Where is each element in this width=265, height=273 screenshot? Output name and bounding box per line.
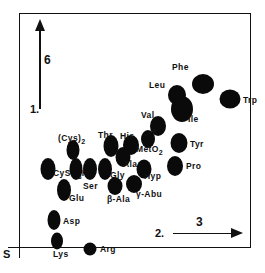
spot-label-thr: Thr <box>98 131 113 140</box>
spot-label-ala: Ala <box>123 160 137 169</box>
spot-label-his: His <box>120 132 134 141</box>
spot-label-cys-2: (Cys)2 <box>58 134 85 146</box>
spot-label-gabu: γ-Abu <box>136 190 162 199</box>
spot-label-phe: Phe <box>172 63 189 72</box>
spot-arg <box>84 243 97 256</box>
spot-lys <box>51 233 63 250</box>
origin-tick-vertical <box>19 236 20 258</box>
spot-label-glu: Glu <box>69 194 84 203</box>
spot-phe <box>192 74 214 94</box>
spot-pro <box>167 156 183 176</box>
plot-frame: PheTrpLeuIleValTyrHisThrMetO2Ala(Cys)2Pr… <box>19 13 251 248</box>
first-dimension-step-label: 1. <box>30 104 39 115</box>
first-dimension-solvent-label: 6 <box>44 54 51 66</box>
spot-label-lys: Lys <box>53 250 69 259</box>
separation-map-figure: PheTrpLeuIleValTyrHisThrMetO2Ala(Cys)2Pr… <box>0 0 265 273</box>
spot-label-val: Val <box>141 111 155 120</box>
spot-label-ser: Ser <box>83 182 98 191</box>
origin-label: S <box>3 249 10 260</box>
spot-label-bala: β-Ala <box>107 195 130 204</box>
first-dimension-axis-line <box>39 29 41 109</box>
spot-asp <box>48 210 61 230</box>
second-dimension-arrowhead-icon <box>231 228 243 238</box>
second-dimension-step-label: 2. <box>155 228 164 239</box>
spot-label-hyp: Hyp <box>144 172 161 181</box>
meto2-pointer-arrow-icon <box>144 129 157 137</box>
spot-ser <box>83 158 97 180</box>
second-dimension-axis-line <box>173 233 235 235</box>
spot-trp <box>220 90 241 109</box>
first-dimension-arrowhead-icon <box>35 19 45 31</box>
spot-bala <box>108 177 123 195</box>
spot-label-trp: Trp <box>243 96 257 105</box>
spot-ser2 <box>70 158 83 180</box>
spot-label-meto2: MetO2 <box>136 145 163 157</box>
spot-label-ile: Ile <box>188 115 199 124</box>
spot-label-tyr: Tyr <box>190 140 204 149</box>
second-dimension-solvent-label: 3 <box>196 216 203 228</box>
spot-label-arg: Arg <box>100 245 116 254</box>
spot-label-asp: Asp <box>63 217 80 226</box>
spot-label-leu: Leu <box>149 81 165 90</box>
spot-tyr <box>171 133 188 153</box>
spot-label-pro: Pro <box>186 162 201 171</box>
